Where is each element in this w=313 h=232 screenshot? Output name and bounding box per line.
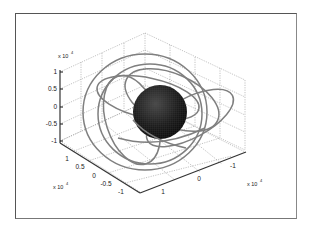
svg-text:0.5: 0.5 <box>75 163 84 170</box>
z-multiplier: x 10 4 <box>58 50 74 59</box>
z-tick-labels: 1 0.5 0 -0.5 -1 <box>46 68 58 144</box>
svg-text:1: 1 <box>161 188 165 195</box>
svg-text:1: 1 <box>53 68 57 75</box>
svg-text:0: 0 <box>92 172 96 179</box>
svg-text:4: 4 <box>71 50 74 55</box>
svg-text:0.5: 0.5 <box>48 85 57 92</box>
x-multiplier: x 10 4 <box>53 181 69 190</box>
svg-text:-0.5: -0.5 <box>46 120 58 127</box>
y-axis <box>140 152 246 193</box>
svg-text:-1: -1 <box>230 162 236 169</box>
svg-text:x 10: x 10 <box>58 53 68 59</box>
plot-3d: 1 0.5 0 -0.5 -1 x 10 4 1 0.5 0 -0.5 -1 x… <box>0 0 313 232</box>
svg-text:0: 0 <box>197 175 201 182</box>
svg-text:4: 4 <box>260 178 263 183</box>
svg-text:-1: -1 <box>118 188 124 195</box>
svg-text:-1: -1 <box>51 137 57 144</box>
y-tick-labels: 1 0 -1 <box>161 162 236 195</box>
svg-text:1: 1 <box>65 155 69 162</box>
svg-text:-0.5: -0.5 <box>100 180 112 187</box>
x-tick-labels: 1 0.5 0 -0.5 -1 <box>65 155 124 195</box>
y-multiplier: x 10 4 <box>247 178 263 187</box>
svg-text:0: 0 <box>53 103 57 110</box>
svg-text:x 10: x 10 <box>247 181 257 187</box>
sphere-surface <box>133 85 187 139</box>
svg-text:x 10: x 10 <box>53 184 63 190</box>
svg-text:4: 4 <box>66 181 69 186</box>
